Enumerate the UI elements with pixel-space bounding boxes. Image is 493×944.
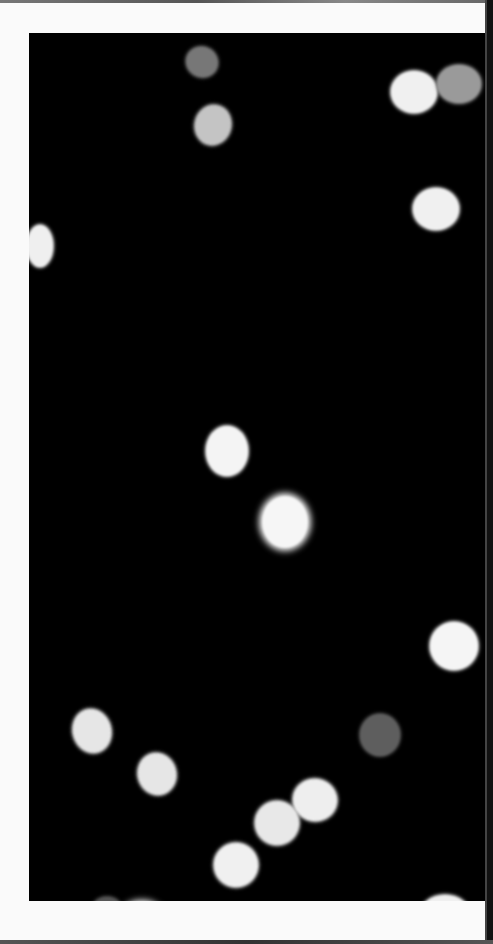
bokeh-dot: [211, 840, 262, 891]
bokeh-dot: [29, 225, 53, 267]
bokeh-dot: [206, 426, 248, 476]
bokeh-dot: [181, 42, 223, 83]
scan-right-lip: [485, 0, 487, 944]
bokeh-dot: [262, 496, 308, 548]
scan-bottom-edge: [0, 940, 493, 944]
bokeh-dot: [437, 65, 481, 103]
bokeh-dot: [360, 714, 400, 756]
bokeh-dot: [133, 749, 181, 799]
scan-right-edge: [485, 0, 493, 944]
bokeh-dot: [430, 622, 478, 670]
bokeh-photo: [29, 33, 485, 901]
bokeh-dot: [420, 895, 470, 901]
bokeh-dot: [391, 71, 437, 113]
bokeh-dot: [190, 101, 235, 149]
bokeh-dot: [92, 897, 122, 901]
bokeh-dot: [413, 188, 459, 230]
scan-top-edge: [0, 0, 493, 3]
bokeh-dot: [68, 705, 116, 757]
